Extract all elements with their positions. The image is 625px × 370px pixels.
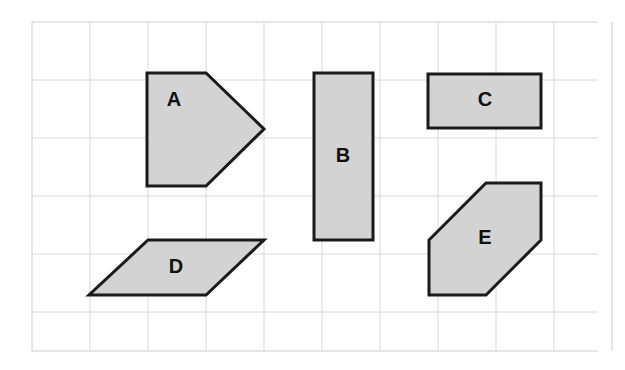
shape-c-label: C [478,88,492,110]
figure-canvas: ABCDE [0,0,625,370]
shape-a-label: A [167,88,181,110]
shapes-diagram: ABCDE [0,0,625,370]
shape-b[interactable]: B [314,73,373,240]
shape-e-label: E [478,226,491,248]
shape-b-label: B [336,144,350,166]
shape-c[interactable]: C [428,74,541,128]
shape-d-label: D [169,255,183,277]
